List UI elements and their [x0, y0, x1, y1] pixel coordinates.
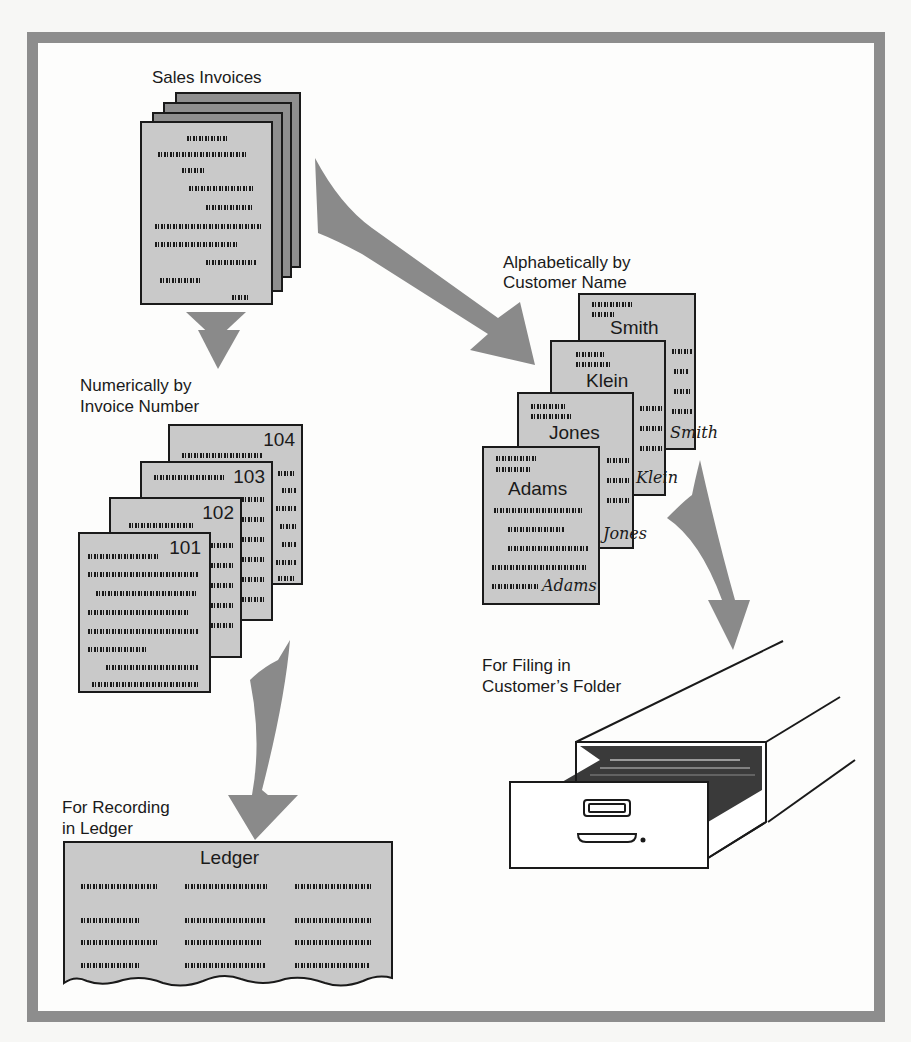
text-line [232, 295, 250, 300]
text-line [278, 576, 296, 581]
numeric-label-line1: Numerically by [80, 376, 191, 396]
text-line [496, 456, 536, 461]
text-line [88, 629, 198, 634]
text-line [276, 560, 296, 565]
text-line [154, 475, 224, 480]
text-line [185, 918, 265, 923]
text-line [496, 467, 532, 472]
text-line [211, 563, 233, 568]
ledger-label-line2: in Ledger [62, 819, 133, 839]
text-line [185, 940, 263, 945]
text-line [88, 647, 148, 652]
text-line [242, 577, 264, 582]
arrow-down-to-numeric [186, 312, 246, 369]
numeric-label-line2: Invoice Number [80, 397, 199, 417]
text-line [81, 963, 139, 968]
text-line [242, 497, 264, 502]
text-line [508, 546, 588, 551]
text-line [672, 409, 692, 414]
card-adams: Adams Adams [482, 446, 600, 605]
invoice-number: 103 [233, 466, 265, 488]
text-line [494, 508, 584, 513]
text-line [88, 572, 198, 577]
invoice-101: 101 [78, 532, 211, 693]
text-line [295, 918, 371, 923]
text-line [182, 453, 262, 458]
text-line [607, 478, 629, 483]
alpha-label-line2: Customer Name [503, 273, 627, 293]
text-line [206, 205, 252, 210]
text-line [160, 278, 200, 283]
text-line [242, 517, 264, 522]
text-line [278, 471, 296, 476]
arrow-to-ledger [228, 640, 298, 840]
text-line [282, 488, 296, 493]
text-line [295, 940, 371, 945]
text-line [242, 597, 264, 602]
alpha-label-line1: Alphabetically by [503, 253, 631, 273]
text-line [640, 406, 662, 411]
text-line [211, 603, 233, 608]
text-line [592, 302, 634, 307]
text-line [185, 884, 267, 889]
card-name: Adams [508, 478, 567, 500]
text-line [106, 665, 198, 670]
text-line [211, 543, 233, 548]
text-line [674, 389, 690, 394]
text-line [576, 362, 610, 367]
text-line [508, 527, 564, 532]
invoice-number: 102 [202, 502, 234, 524]
text-line [492, 584, 538, 589]
ledger-title: Ledger [200, 847, 259, 869]
text-line [158, 152, 248, 157]
text-line [672, 349, 692, 354]
arrow-to-filing [667, 460, 750, 650]
text-line [88, 610, 188, 615]
text-line [607, 458, 629, 463]
text-line [576, 352, 606, 357]
invoice-number: 104 [263, 429, 295, 451]
text-line [185, 963, 265, 968]
card-signature: Jones [603, 524, 647, 543]
card-signature: Adams [542, 576, 597, 595]
card-signature: Smith [670, 423, 718, 442]
card-signature: Klein [636, 468, 678, 487]
card-name: Klein [586, 370, 628, 392]
text-line [155, 242, 237, 247]
filing-label-line1: For Filing in [482, 656, 571, 676]
text-line [531, 414, 571, 419]
text-line [211, 583, 233, 588]
ledger-label-line1: For Recording [62, 798, 170, 818]
text-line [81, 940, 157, 945]
text-line [674, 369, 688, 374]
text-line [211, 623, 233, 628]
text-line [88, 554, 158, 559]
text-line [295, 963, 369, 968]
text-line [492, 565, 588, 570]
text-line [242, 537, 264, 542]
text-line [282, 542, 296, 547]
text-line [187, 136, 227, 141]
text-line [531, 404, 565, 409]
text-line [129, 523, 193, 528]
text-line [92, 682, 198, 687]
text-line [640, 446, 662, 451]
card-name: Jones [549, 422, 600, 444]
text-line [640, 426, 662, 431]
text-line [81, 918, 141, 923]
invoice-number: 101 [169, 537, 201, 559]
sales-invoices-label: Sales Invoices [152, 68, 262, 88]
arrow-to-alphabetical [315, 158, 535, 365]
text-line [242, 557, 264, 562]
text-line [182, 168, 204, 173]
text-line [206, 260, 256, 265]
text-line [189, 186, 253, 191]
text-line [280, 524, 296, 529]
ledger-sheet: Ledger [63, 841, 393, 991]
text-line [607, 498, 629, 503]
filing-label-line2: Customer’s Folder [482, 677, 621, 697]
card-name: Smith [610, 317, 659, 339]
text-line [96, 591, 196, 596]
text-line [276, 506, 296, 511]
text-line [155, 224, 263, 229]
